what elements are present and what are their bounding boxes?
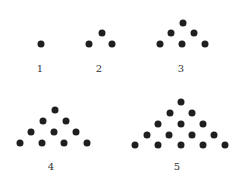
figure-5: 5 <box>0 0 245 184</box>
dot <box>167 110 174 117</box>
dot <box>132 142 139 149</box>
dot <box>222 142 229 149</box>
dot <box>178 142 185 149</box>
dot <box>200 142 207 149</box>
dot <box>189 110 196 117</box>
dot <box>166 132 173 139</box>
dot <box>189 132 196 139</box>
dot <box>200 121 207 128</box>
figure-label: 5 <box>174 161 180 172</box>
dot <box>155 121 162 128</box>
dot <box>155 142 162 149</box>
dot <box>178 121 185 128</box>
dot <box>211 132 218 139</box>
dot <box>144 132 151 139</box>
dot <box>178 99 185 106</box>
